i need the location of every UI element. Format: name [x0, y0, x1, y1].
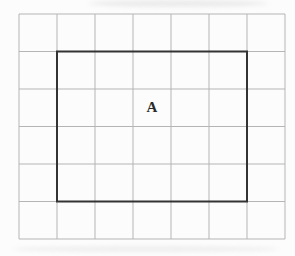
grid-canvas — [0, 0, 295, 256]
grid-figure: A — [0, 0, 295, 256]
rectangle-label: A — [147, 99, 158, 116]
